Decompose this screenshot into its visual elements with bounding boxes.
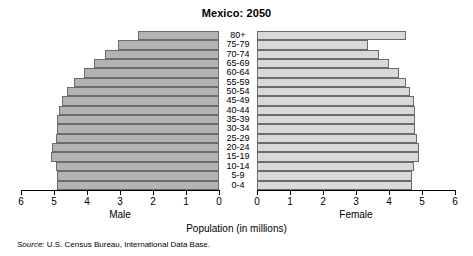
axis-tick-label: 6 [445, 196, 465, 207]
female-bar [257, 106, 415, 115]
female-bars-panel [257, 31, 455, 190]
female-bar [257, 96, 414, 105]
female-bar [257, 50, 379, 59]
axis-tick-label: 6 [11, 196, 31, 207]
axis-tick [356, 191, 357, 195]
male-bar-row [21, 143, 219, 152]
axis-tick [389, 191, 390, 195]
male-bar [94, 59, 219, 68]
male-bar [118, 40, 219, 49]
male-bar-row [21, 59, 219, 68]
female-bar-row [257, 162, 455, 171]
axis-tick-label: 1 [280, 196, 300, 207]
axis-tick [422, 191, 423, 195]
axis-tick [186, 191, 187, 195]
male-bar-row [21, 78, 219, 87]
male-bar [59, 106, 219, 115]
axis-tick [87, 191, 88, 195]
axis-tick [153, 191, 154, 195]
female-bar [257, 31, 406, 40]
x-axis-label: Population (in millions) [0, 223, 473, 234]
female-bar-row [257, 134, 455, 143]
female-bar [257, 181, 412, 190]
female-bar-row [257, 96, 455, 105]
axis-tick [290, 191, 291, 195]
female-bar-row [257, 87, 455, 96]
male-bar [84, 68, 219, 77]
axis-tick-label: 2 [313, 196, 333, 207]
axis-tick-label: 4 [379, 196, 399, 207]
male-bar [138, 31, 219, 40]
female-bar-row [257, 124, 455, 133]
axis-tick [257, 191, 258, 195]
male-bar [74, 78, 219, 87]
male-bar-row [21, 124, 219, 133]
male-bar-row [21, 31, 219, 40]
source-prefix: Source: [17, 240, 45, 249]
axis-tick [323, 191, 324, 195]
male-bar-row [21, 152, 219, 161]
male-bar-row [21, 40, 219, 49]
source-text: U.S. Census Bureau, International Data B… [45, 240, 210, 249]
axis-tick [455, 191, 456, 195]
male-bars-panel [21, 31, 219, 190]
female-bar-row [257, 50, 455, 59]
female-bar [257, 59, 389, 68]
axis-tick-label: 0 [209, 196, 229, 207]
female-bar-row [257, 171, 455, 180]
female-bar [257, 171, 412, 180]
male-axis-title: Male [60, 209, 180, 220]
axis-tick [219, 191, 220, 195]
male-bar-row [21, 162, 219, 171]
male-bar-row [21, 96, 219, 105]
female-bar-row [257, 181, 455, 190]
female-axis-title: Female [296, 209, 416, 220]
female-bar-row [257, 68, 455, 77]
female-bar [257, 162, 414, 171]
male-bar [57, 181, 219, 190]
female-bar [257, 68, 399, 77]
age-group-labels: 80+75-7970-7465-6960-6455-5950-5445-4940… [219, 31, 257, 190]
female-bar [257, 134, 417, 143]
male-bar-row [21, 68, 219, 77]
axis-tick [21, 191, 22, 195]
male-bar [52, 143, 219, 152]
male-bar [105, 50, 219, 59]
female-bar-row [257, 106, 455, 115]
female-bar [257, 152, 419, 161]
axis-tick-label: 5 [412, 196, 432, 207]
chart-title: Mexico: 2050 [0, 7, 473, 19]
male-bar-row [21, 134, 219, 143]
male-bar [56, 162, 219, 171]
axis-tick-label: 3 [346, 196, 366, 207]
male-bar-row [21, 181, 219, 190]
axis-tick [54, 191, 55, 195]
female-bar-row [257, 143, 455, 152]
axis-tick-label: 1 [176, 196, 196, 207]
male-bar-row [21, 87, 219, 96]
female-bar-row [257, 115, 455, 124]
axis-tick-label: 3 [110, 196, 130, 207]
age-group-label: 0-4 [219, 181, 257, 190]
female-bar-row [257, 152, 455, 161]
male-bar [67, 87, 219, 96]
male-bar-row [21, 106, 219, 115]
axis-tick-label: 4 [77, 196, 97, 207]
male-bar-row [21, 50, 219, 59]
axis-tick-label: 0 [247, 196, 267, 207]
female-bar [257, 115, 415, 124]
male-bar [57, 115, 219, 124]
female-bar [257, 78, 406, 87]
male-bar [56, 134, 219, 143]
female-bar [257, 40, 368, 49]
female-bar [257, 87, 410, 96]
male-bar [62, 96, 219, 105]
axis-tick-label: 2 [143, 196, 163, 207]
female-bar [257, 124, 415, 133]
female-bar-row [257, 31, 455, 40]
female-bar-row [257, 40, 455, 49]
axis-tick [120, 191, 121, 195]
female-bar-row [257, 59, 455, 68]
population-pyramid-figure: Mexico: 2050 80+75-7970-7465-6960-6455-5… [0, 0, 473, 256]
axis-tick-label: 5 [44, 196, 64, 207]
